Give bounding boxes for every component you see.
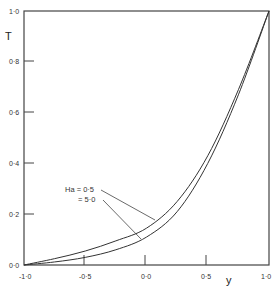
series-ha-5-0-line bbox=[24, 11, 269, 265]
y-tick-label: 1·0 bbox=[9, 8, 19, 15]
annotation-leader-line bbox=[101, 190, 155, 220]
y-tick-label: 0·6 bbox=[9, 109, 19, 116]
x-tick-label: 1·0 bbox=[261, 273, 271, 280]
y-tick-label: 0·4 bbox=[9, 160, 19, 167]
x-tick-label: 0·5 bbox=[201, 273, 211, 280]
x-axis-label: y bbox=[226, 274, 232, 286]
x-axis-ticks bbox=[84, 255, 206, 265]
line-chart: 0·0 0·2 0·4 0·6 0·8 1·0 -1·0 -0·5 0·0 0·… bbox=[0, 0, 275, 289]
y-tick-label: 0·0 bbox=[9, 262, 19, 269]
annotation-ha-5-0: = 5·0 bbox=[78, 195, 95, 204]
x-tick-label: -1·0 bbox=[19, 273, 32, 280]
annotation-ha-0-5: Ha = 0·5 bbox=[65, 185, 94, 194]
series-ha-0-5-line bbox=[24, 11, 269, 265]
x-tick-label: -0·5 bbox=[79, 273, 92, 280]
y-tick-label: 0·2 bbox=[9, 211, 19, 218]
y-axis-label: T bbox=[5, 30, 12, 42]
annotation-leader-line bbox=[103, 200, 141, 239]
x-tick-label: 0·0 bbox=[141, 273, 151, 280]
y-axis-ticks bbox=[24, 61, 34, 214]
plot-frame bbox=[24, 11, 269, 265]
y-tick-label: 0·8 bbox=[9, 58, 19, 65]
